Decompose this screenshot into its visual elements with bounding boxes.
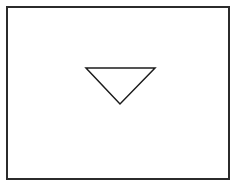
downward-triangle — [86, 68, 155, 104]
shape-svg — [0, 0, 237, 187]
shape-layer — [0, 0, 237, 187]
drawing-canvas — [0, 0, 237, 187]
